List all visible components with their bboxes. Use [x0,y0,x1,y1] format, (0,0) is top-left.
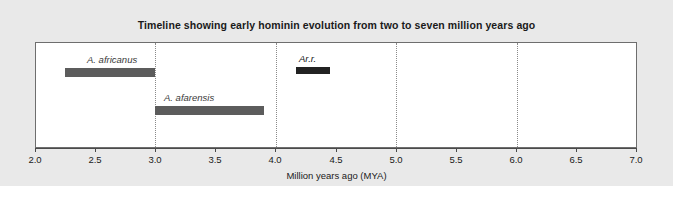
tick-mark-4-5 [336,148,337,152]
tick-mark-5-5 [456,148,457,152]
tick-label-4-5: 4.5 [316,154,356,165]
page-title: Timeline showing early hominin evolution… [0,19,673,31]
bar-label-ardipithecus: Ar.r. [299,53,316,64]
tick-mark-2-0 [35,148,36,152]
tick-mark-6-0 [516,148,517,152]
gridline-5 [396,43,397,147]
tick-mark-2-5 [95,148,96,152]
bottom-margin [0,186,673,205]
tick-mark-7-0 [636,148,637,152]
gridline-3 [155,43,156,147]
plot-area: A. africanus A. afarensis Ar.r. [35,42,637,148]
tick-label-7-0: 7.0 [616,154,656,165]
tick-mark-4-0 [275,148,276,152]
tick-mark-3-0 [155,148,156,152]
bar-africanus [65,68,155,77]
gridline-6 [517,43,518,147]
figure-panel: Timeline showing early hominin evolution… [0,0,673,186]
tick-mark-3-5 [215,148,216,152]
tick-label-6-0: 6.0 [496,154,536,165]
gridline-4 [276,43,277,147]
tick-mark-5-0 [396,148,397,152]
tick-label-4-0: 4.0 [255,154,295,165]
tick-label-5-5: 5.5 [436,154,476,165]
tick-mark-6-5 [576,148,577,152]
bar-label-africanus: A. africanus [87,54,137,65]
tick-label-2-0: 2.0 [15,154,55,165]
tick-label-6-5: 6.5 [556,154,596,165]
tick-label-3-0: 3.0 [135,154,175,165]
tick-label-2-5: 2.5 [75,154,115,165]
x-axis-title: Million years ago (MYA) [0,170,673,181]
bar-label-afarensis: A. afarensis [164,92,214,103]
bar-ardipithecus [296,67,330,74]
tick-label-5-0: 5.0 [376,154,416,165]
bar-afarensis [155,106,263,115]
tick-label-3-5: 3.5 [195,154,235,165]
